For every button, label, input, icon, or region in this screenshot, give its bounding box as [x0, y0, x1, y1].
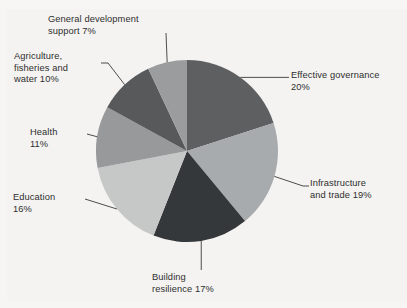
slice-label-health: Health 11%: [30, 127, 84, 150]
leader-line-infrastructure-and-trade: [274, 176, 303, 186]
slice-label-building-resilience: Building resilience 17%: [152, 272, 262, 295]
leader-line-agriculture-fisheries-water: [108, 63, 125, 85]
slice-label-infrastructure-and-trade: Infrastructure and trade 19%: [310, 178, 405, 201]
slice-label-effective-governance: Effective governance 20%: [291, 70, 403, 93]
leader-line-general-development-support: [166, 33, 167, 62]
leader-line-health: [87, 134, 97, 137]
pie-slice-group: [96, 60, 278, 242]
pie-chart-figure: General development support 7% Agricultu…: [0, 0, 407, 308]
slice-label-agriculture-fisheries-water: Agriculture, fisheries and water 10%: [14, 51, 100, 86]
slice-label-general-development-support: General development support 7%: [48, 14, 176, 37]
pie-chart-svg: [0, 0, 407, 308]
slice-label-education: Education 16%: [13, 192, 83, 215]
